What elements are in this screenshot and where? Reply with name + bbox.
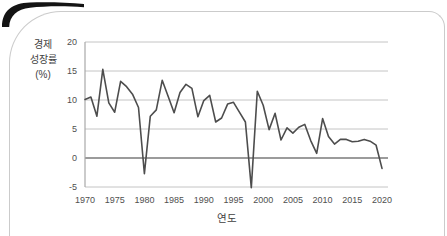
growth-rate-line bbox=[85, 69, 382, 187]
y-axis-label-line: 경제 bbox=[18, 37, 68, 52]
y-tick-label: 0 bbox=[72, 153, 77, 163]
y-tick-label: 5 bbox=[72, 124, 77, 134]
y-tick-label: -5 bbox=[69, 182, 77, 192]
x-tick-label: 2020 bbox=[372, 195, 392, 205]
x-axis-label: 연도 bbox=[197, 210, 257, 225]
x-tick-label: 1980 bbox=[134, 195, 154, 205]
growth-line-chart: 20151050-5197019751980198519901995200020… bbox=[0, 0, 447, 236]
y-axis-label-line: 성장률 bbox=[18, 52, 68, 67]
x-tick-label: 2010 bbox=[313, 195, 333, 205]
x-tick-label: 2005 bbox=[283, 195, 303, 205]
x-tick-label: 2000 bbox=[253, 195, 273, 205]
x-tick-label: 2015 bbox=[342, 195, 362, 205]
x-tick-label: 1970 bbox=[75, 195, 95, 205]
y-axis-label: 경제 성장률 (%) bbox=[18, 37, 68, 82]
y-axis-label-line: (%) bbox=[18, 67, 68, 82]
y-tick-label: 10 bbox=[67, 95, 77, 105]
figure-panel: 20151050-5197019751980198519901995200020… bbox=[0, 0, 447, 236]
x-tick-label: 1985 bbox=[164, 195, 184, 205]
x-tick-label: 1995 bbox=[223, 195, 243, 205]
y-tick-label: 20 bbox=[67, 37, 77, 47]
x-tick-label: 1975 bbox=[105, 195, 125, 205]
y-tick-label: 15 bbox=[67, 66, 77, 76]
x-tick-label: 1990 bbox=[194, 195, 214, 205]
